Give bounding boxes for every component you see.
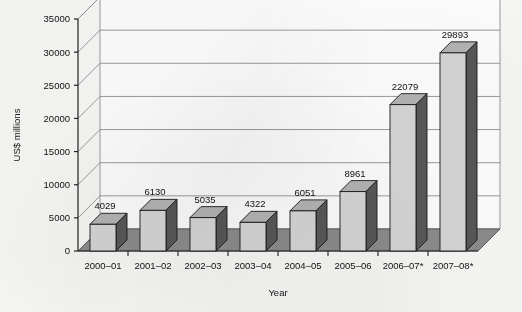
y-tick-label: 15000 [44, 146, 70, 157]
bar-column [240, 211, 277, 251]
bar-column [140, 199, 177, 251]
bar-column [90, 213, 127, 251]
bar-value-label: 5035 [194, 194, 215, 205]
bar-value-label: 29893 [442, 29, 468, 40]
x-category-label: 2007–08* [433, 260, 474, 271]
bar-column [390, 94, 427, 251]
y-tick-label: 30000 [44, 47, 70, 58]
y-tick-label: 0 [65, 245, 70, 256]
x-category-label: 2006–07* [383, 260, 424, 271]
x-axis-title: Year [268, 287, 287, 298]
bar-value-label: 4029 [94, 200, 115, 211]
bar-column [290, 200, 327, 251]
x-category-label: 2005–06 [335, 260, 372, 271]
bar-value-label: 4322 [244, 198, 265, 209]
bar-column [190, 207, 227, 251]
y-tick-label: 20000 [44, 113, 70, 124]
x-category-label: 2004–05 [285, 260, 322, 271]
bar-column [440, 42, 477, 251]
y-tick-label: 5000 [49, 212, 70, 223]
x-category-label: 2002–03 [185, 260, 222, 271]
column-chart-3d: 05000100001500020000250003000035000 4029… [0, 0, 522, 312]
chart-container: 05000100001500020000250003000035000 4029… [0, 0, 522, 312]
y-tick-label: 10000 [44, 179, 70, 190]
y-axis-title: US$ millions [11, 108, 22, 161]
x-category-label: 2000–01 [85, 260, 122, 271]
bar-value-label: 6051 [294, 187, 315, 198]
bar-value-label: 22079 [392, 81, 418, 92]
bar-column [340, 181, 377, 251]
y-tick-label: 35000 [44, 13, 70, 24]
bar-value-label: 8961 [344, 168, 365, 179]
x-category-label: 2003–04 [235, 260, 272, 271]
bar-value-label: 6130 [144, 186, 165, 197]
y-tick-label: 25000 [44, 80, 70, 91]
x-category-label: 2001–02 [135, 260, 172, 271]
